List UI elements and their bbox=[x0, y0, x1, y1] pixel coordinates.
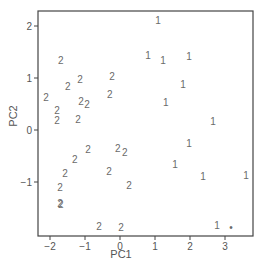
data-point-class-1: 1 bbox=[243, 170, 249, 181]
data-point-class-2: 2 bbox=[107, 89, 113, 100]
data-point-class-2: 2 bbox=[122, 147, 128, 158]
data-point-class-1: 1 bbox=[155, 15, 161, 26]
scatter-plot: −2−10123 −1012 PC1 PC2 11111111111122222… bbox=[0, 0, 264, 269]
data-point-class-1: 1 bbox=[145, 50, 151, 61]
data-point-class-dot: • bbox=[229, 222, 233, 233]
data-point-class-2: 2 bbox=[106, 166, 112, 177]
data-point-class-2: 2 bbox=[57, 182, 63, 193]
plot-frame bbox=[38, 11, 253, 236]
y-tick-label: −1 bbox=[21, 177, 33, 188]
x-axis-label: PC1 bbox=[110, 248, 131, 260]
x-tick-label: 3 bbox=[222, 241, 228, 252]
x-tick-label: −2 bbox=[44, 241, 56, 252]
data-point-class-2: 2 bbox=[126, 180, 132, 191]
data-point-class-1: 1 bbox=[210, 116, 216, 127]
data-point-class-2: 2 bbox=[115, 143, 121, 154]
data-point-class-2: 2 bbox=[65, 81, 71, 92]
x-tick-label: 2 bbox=[187, 241, 193, 252]
data-point-class-2: 2 bbox=[54, 115, 60, 126]
data-point-class-1: 1 bbox=[186, 138, 192, 149]
data-points: 11111111111122222222222222222222222• bbox=[43, 15, 249, 233]
y-axis: −1012 bbox=[21, 21, 38, 188]
data-point-class-1: 1 bbox=[172, 159, 178, 170]
data-point-class-1: 1 bbox=[186, 51, 192, 62]
y-axis-label: PC2 bbox=[7, 105, 19, 126]
data-point-class-1: 1 bbox=[163, 97, 169, 108]
x-axis: −2−10123 bbox=[44, 236, 228, 252]
data-point-class-1: 1 bbox=[160, 55, 166, 66]
data-point-class-1: 1 bbox=[180, 79, 186, 90]
data-point-class-1: 1 bbox=[200, 171, 206, 182]
y-tick-label: 0 bbox=[26, 125, 32, 136]
data-point-class-1: 1 bbox=[214, 220, 220, 231]
data-point-class-2: 2 bbox=[58, 55, 64, 66]
x-tick-label: 1 bbox=[152, 241, 158, 252]
data-point-class-2: 2 bbox=[77, 74, 83, 85]
y-tick-label: 1 bbox=[26, 73, 32, 84]
data-point-class-2: 2 bbox=[118, 222, 124, 233]
data-point-class-2: 2 bbox=[109, 71, 115, 82]
x-tick-label: −1 bbox=[79, 241, 91, 252]
data-point-class-2: 2 bbox=[43, 92, 49, 103]
data-point-class-2: 2 bbox=[85, 144, 91, 155]
data-point-class-2: 2 bbox=[96, 221, 102, 232]
data-point-class-2: 2 bbox=[58, 199, 64, 210]
data-point-class-2: 2 bbox=[72, 154, 78, 165]
data-point-class-2: 2 bbox=[84, 99, 90, 110]
y-tick-label: 2 bbox=[26, 21, 32, 32]
data-point-class-2: 2 bbox=[62, 168, 68, 179]
data-point-class-2: 2 bbox=[75, 114, 81, 125]
